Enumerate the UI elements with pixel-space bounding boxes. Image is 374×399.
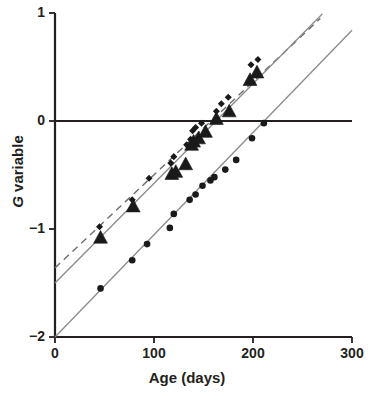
y-axis-title-rest: variable: [9, 135, 26, 196]
data-point-dot: [219, 101, 224, 106]
y-tick-label: −1: [19, 220, 45, 236]
data-point-dot: [226, 95, 231, 100]
data-point-triangle: [222, 104, 236, 117]
data-point-circle: [167, 225, 174, 232]
x-axis-title: Age (days): [0, 369, 374, 386]
data-point-circle: [144, 241, 151, 248]
y-tick-label: −2: [19, 328, 45, 344]
x-tick-label: 200: [233, 345, 273, 361]
x-tick-label: 300: [332, 345, 372, 361]
data-point-circle: [192, 191, 199, 198]
data-point-circle: [249, 135, 256, 142]
x-tick-label: 100: [134, 345, 174, 361]
axes-group: [49, 13, 352, 343]
y-tick-label: 1: [19, 4, 45, 20]
data-point-triangle: [179, 157, 193, 170]
data-point-circle: [211, 174, 218, 181]
data-point-dot: [255, 57, 260, 62]
data-point-dot: [146, 176, 151, 181]
data-point-circle: [171, 211, 178, 218]
y-axis-title-symbol: G: [9, 196, 26, 208]
data-point-circle: [222, 166, 229, 173]
y-axis-title: G variable: [9, 122, 26, 222]
data-point-triangle: [126, 199, 140, 212]
data-point-triangle: [209, 112, 223, 125]
data-point-circle: [186, 197, 193, 204]
data-point-circle: [261, 120, 268, 127]
data-point-circle: [129, 257, 136, 264]
y-tick-label: 0: [19, 112, 45, 128]
data-point-dot: [248, 62, 253, 67]
data-point-circle: [97, 285, 104, 292]
scatter-plot-canvas: [0, 0, 374, 399]
data-point-circle: [199, 183, 206, 190]
data-point-circle: [233, 157, 240, 164]
chart-figure: Age (days) G variable 10−1−20100200300: [0, 0, 374, 399]
x-tick-label: 0: [35, 345, 75, 361]
